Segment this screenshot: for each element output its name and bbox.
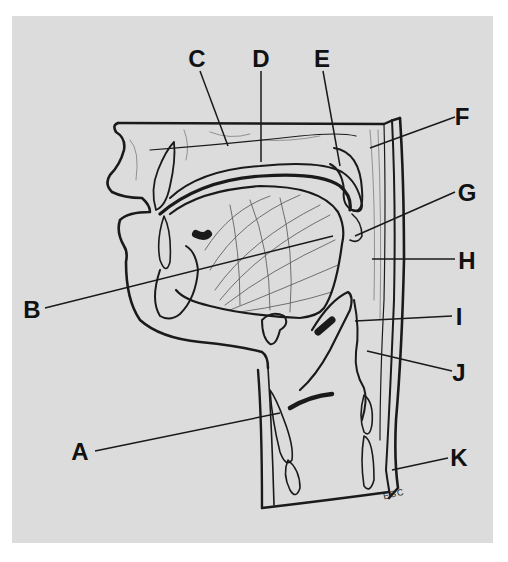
label-C: C — [188, 47, 205, 71]
tongue — [170, 186, 343, 318]
label-E: E — [314, 47, 330, 71]
mandible — [155, 246, 198, 319]
label-G: G — [458, 181, 477, 205]
pointer-line-C — [200, 71, 228, 146]
label-A: A — [71, 440, 88, 464]
pointer-line-K — [392, 458, 448, 470]
diagram-panel: A B C D E F G H I J K ESC — [12, 16, 493, 543]
adenoid — [350, 214, 362, 241]
label-H: H — [458, 249, 475, 273]
bottom-cut — [262, 492, 389, 508]
lower-incisor — [159, 216, 171, 269]
label-K: K — [450, 446, 467, 470]
anterior-neck — [258, 370, 262, 508]
pointer-line-B — [45, 236, 333, 308]
label-I: I — [456, 305, 463, 329]
label-F: F — [455, 105, 470, 129]
hard-palate — [170, 164, 362, 211]
top-cut — [118, 118, 400, 124]
face-outline — [107, 123, 268, 368]
label-B: B — [23, 298, 40, 322]
pointer-line-E — [323, 71, 340, 166]
hyoid — [262, 314, 286, 344]
thyroid-cartilage — [270, 390, 292, 463]
label-J: J — [452, 361, 465, 385]
vocal-fold — [290, 394, 332, 408]
pointer-line-J — [367, 351, 452, 371]
posterior-wall — [389, 118, 404, 498]
tongue-fibres — [205, 195, 338, 312]
pointer-line-F — [370, 117, 455, 148]
upper-incisor — [153, 142, 174, 210]
pointer-line-A — [95, 413, 280, 451]
soft-palate — [330, 148, 362, 211]
label-D: D — [252, 47, 269, 71]
